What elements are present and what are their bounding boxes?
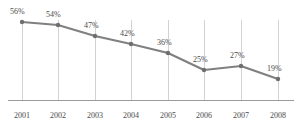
data-point-2005 — [166, 51, 170, 55]
data-point-2002 — [56, 23, 60, 27]
data-point-2003 — [93, 34, 97, 38]
x-tick-label-2005: 2005 — [150, 111, 186, 121]
data-label-2007: 27% — [230, 51, 245, 60]
x-tick-label-2007: 2007 — [223, 111, 259, 121]
data-label-2001: 56% — [10, 7, 25, 16]
x-tick-label-2006: 2006 — [186, 111, 222, 121]
data-point-2008 — [276, 77, 280, 81]
series-line-group — [0, 0, 298, 101]
x-tick-label-2001: 2001 — [4, 111, 40, 121]
data-label-2004: 42% — [120, 29, 135, 38]
x-tick-label-2002: 2002 — [40, 111, 76, 121]
plot-area: 56%54%47%42%36%25%27%19% — [0, 0, 298, 101]
data-label-2008: 19% — [267, 64, 282, 73]
data-label-2002: 54% — [46, 10, 61, 19]
data-label-2006: 25% — [193, 55, 208, 64]
data-point-2006 — [202, 68, 206, 72]
line-chart: 56%54%47%42%36%25%27%19% 200120022003200… — [0, 0, 298, 126]
data-label-2003: 47% — [84, 21, 99, 30]
x-axis-tick-labels: 20012002200320042005200620072008 — [0, 101, 298, 126]
data-point-2007 — [239, 64, 243, 68]
data-label-2005: 36% — [157, 38, 172, 47]
x-tick-label-2004: 2004 — [113, 111, 149, 121]
x-tick-label-2008: 2008 — [260, 111, 296, 121]
data-point-2004 — [129, 42, 133, 46]
x-tick-label-2003: 2003 — [77, 111, 113, 121]
data-point-2001 — [20, 20, 24, 24]
